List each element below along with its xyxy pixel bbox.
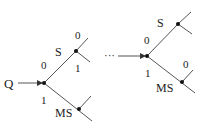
s-node bbox=[74, 49, 78, 53]
upper-edge-label: 0 bbox=[41, 59, 47, 71]
s-node-right bbox=[176, 22, 180, 26]
ms-out0-label-right: 0 bbox=[183, 58, 189, 70]
lower-edge-label-right: 1 bbox=[145, 67, 151, 79]
edge-ms-out0-right bbox=[182, 70, 193, 82]
ms-node-label-right: MS bbox=[156, 81, 173, 95]
root-label: Q bbox=[4, 76, 14, 91]
s-out0-label: 0 bbox=[75, 29, 81, 41]
continuation-dots: ··· bbox=[104, 49, 115, 61]
edge-s-out1 bbox=[76, 51, 90, 62]
ms-node-right bbox=[180, 80, 184, 84]
edge-s-out0-right bbox=[178, 12, 191, 24]
upper-edge-label-right: 0 bbox=[144, 34, 150, 46]
root-node bbox=[42, 81, 46, 85]
ms-node-label: MS bbox=[55, 106, 72, 120]
s-out1-label: 1 bbox=[75, 62, 81, 74]
root-node-right bbox=[145, 54, 149, 58]
ms-node bbox=[77, 107, 81, 111]
s-node-label: S bbox=[55, 45, 62, 59]
edge-ms-out0 bbox=[79, 96, 91, 109]
edge-s-out1-right bbox=[178, 24, 192, 34]
tree-diagram: Q 0 1 S 0 1 MS ··· 0 1 S 0 MS bbox=[0, 0, 204, 129]
lower-edge-label: 1 bbox=[41, 94, 47, 106]
s-node-label-right: S bbox=[157, 16, 164, 30]
